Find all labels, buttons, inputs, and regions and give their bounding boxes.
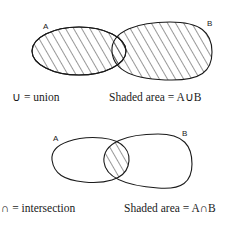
intersection-symbol-definition: ∩ = intersection (1, 202, 75, 214)
intersection-shaded-caption: Shaded area = A∩B (124, 202, 216, 214)
intersection-venn: A B ∩ = intersection Shaded area = A∩B (1, 129, 216, 214)
union-venn: A B ∪ = union Shaded area = A∪B (12, 19, 212, 103)
set-b-label: B (182, 129, 187, 138)
union-symbol-definition: ∪ = union (12, 91, 60, 103)
set-a-label: A (53, 134, 59, 143)
set-b-region (112, 22, 212, 80)
set-a-label: A (43, 22, 49, 31)
venn-diagrams: A B ∪ = union Shaded area = A∪B A B ∩ = … (0, 0, 247, 229)
set-b-label: B (207, 19, 212, 28)
union-shaded-caption: Shaded area = A∪B (109, 91, 202, 103)
